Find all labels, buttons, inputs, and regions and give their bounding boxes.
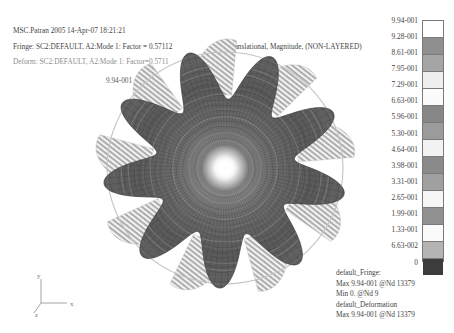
annot-deform-max: Max 9.94-001 @Nd 13379 <box>336 310 415 321</box>
legend-tick-10: 3.31-001 <box>392 178 418 185</box>
legend-band-1 <box>423 38 443 55</box>
result-annotation: default_Fringe: Max 9.94-001 @Nd 13379 M… <box>336 268 415 321</box>
color-legend-labels: 9.94-0019.28-0018.61-0017.95-0017.29-001… <box>356 14 418 270</box>
legend-tick-1: 9.28-001 <box>392 33 418 40</box>
legend-band-13 <box>423 242 443 259</box>
color-legend-bar[interactable] <box>422 20 444 262</box>
triad-z-label: z <box>35 311 38 319</box>
legend-tick-0: 9.94-001 <box>392 17 418 24</box>
legend-tick-2: 8.61-001 <box>392 49 418 56</box>
legend-tick-12: 1.99-001 <box>392 210 418 217</box>
legend-band-12 <box>423 225 443 242</box>
patran-viewport: MSC.Patran 2005 14-Apr-07 18:21:21 Fring… <box>0 0 454 333</box>
legend-tick-9: 3.98-001 <box>392 162 418 169</box>
hub-highlight <box>199 142 251 194</box>
fem-mode-shape-plot <box>82 32 362 300</box>
legend-band-7 <box>423 140 443 157</box>
annot-deform-title: default_Deformation <box>336 300 415 311</box>
legend-tick-5: 6.63-001 <box>392 97 418 104</box>
peak-value-label: 9.94-001 <box>106 76 132 85</box>
legend-tick-6: 5.96-001 <box>392 113 418 120</box>
legend-band-2 <box>423 55 443 72</box>
triad-x-label: x <box>70 300 74 308</box>
legend-tick-8: 4.64-001 <box>392 146 418 153</box>
legend-band-5 <box>423 106 443 123</box>
legend-tick-11: 2.65-001 <box>392 194 418 201</box>
legend-band-3 <box>423 72 443 89</box>
axis-triad: y x z <box>33 273 79 319</box>
legend-tick-7: 5.30-001 <box>392 130 418 137</box>
legend-tick-3: 7.95-001 <box>392 65 418 72</box>
legend-band-4 <box>423 89 443 106</box>
legend-band-14 <box>423 259 443 275</box>
triad-y-label: y <box>37 273 41 280</box>
legend-tick-14: 6.63-002 <box>392 242 418 249</box>
legend-band-10 <box>423 191 443 208</box>
legend-tick-4: 7.29-001 <box>392 81 418 88</box>
legend-tick-15: 0 <box>414 259 418 266</box>
legend-band-6 <box>423 123 443 140</box>
legend-band-11 <box>423 208 443 225</box>
legend-band-9 <box>423 174 443 191</box>
legend-tick-13: 1.33-001 <box>392 226 418 233</box>
legend-band-0 <box>423 21 443 38</box>
annot-fringe-max: Max 9.94-001 @Nd 13379 <box>336 279 415 290</box>
legend-band-8 <box>423 157 443 174</box>
annot-fringe-min: Min 0. @Nd 9 <box>336 289 415 300</box>
annot-fringe-title: default_Fringe: <box>336 268 415 279</box>
